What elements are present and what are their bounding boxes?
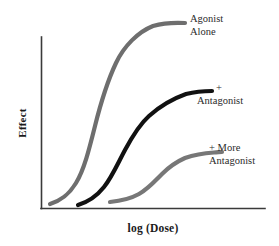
series-label-plus-antagonist-line1: +	[197, 82, 243, 95]
curve-plus-more-antagonist	[110, 152, 222, 202]
series-label-agonist-alone: Agonist Alone	[190, 13, 226, 38]
curve-agonist-alone	[50, 23, 185, 204]
series-label-plus-more-antagonist-line2: Antagonist	[209, 155, 255, 168]
series-label-plus-more-antagonist-line1: + More	[209, 142, 255, 155]
series-label-agonist-alone-line2: Alone	[190, 26, 226, 39]
series-label-agonist-alone-line1: Agonist	[190, 13, 226, 26]
series-label-plus-antagonist-line2: Antagonist	[197, 95, 243, 108]
dose-response-figure: Effect log (Dose) Agonist Alone + Antago…	[0, 0, 279, 246]
series-label-plus-more-antagonist: + More Antagonist	[209, 142, 255, 167]
plot-area	[0, 0, 279, 246]
series-label-plus-antagonist: + Antagonist	[197, 82, 243, 107]
x-axis-title: log (Dose)	[41, 222, 265, 234]
